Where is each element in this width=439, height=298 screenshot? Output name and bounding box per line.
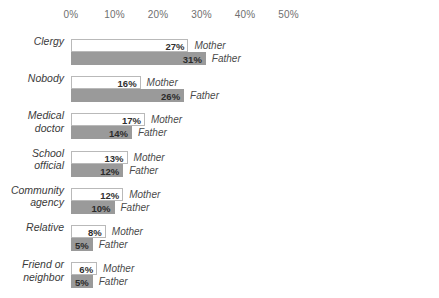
series-name-father: Father xyxy=(212,52,241,65)
bar-mother[interactable]: 8% xyxy=(71,225,106,238)
category-label: Medicaldoctor xyxy=(0,109,64,134)
bar-father[interactable]: 5% xyxy=(71,238,93,251)
bar-mother[interactable]: 16% xyxy=(71,76,141,89)
bar-father[interactable]: 26% xyxy=(71,89,184,102)
bar-father[interactable]: 12% xyxy=(71,164,123,177)
category-label-line2: doctor xyxy=(0,122,64,135)
series-name-father: Father xyxy=(99,275,128,288)
bar-value-label: 26% xyxy=(161,90,180,103)
category-label: Clergy xyxy=(0,35,64,48)
category-label-line1: Friend or xyxy=(22,258,64,270)
plot-area: Clergy27%Mother31%FatherNobody16%Mother2… xyxy=(0,30,439,298)
bar-group: Communityagency12%Mother10%Father xyxy=(0,187,439,215)
x-axis: 0%10%20%30%40%50% xyxy=(0,0,439,30)
bar-value-label: 5% xyxy=(75,276,89,289)
category-label: Schoolofficial xyxy=(0,147,64,172)
category-label: Relative xyxy=(0,221,64,234)
bar-mother[interactable]: 13% xyxy=(71,151,128,164)
bar-value-label: 5% xyxy=(75,239,89,252)
series-name-father: Father xyxy=(138,126,167,139)
bar-mother[interactable]: 12% xyxy=(71,188,123,201)
category-label: Communityagency xyxy=(0,184,64,209)
series-name-mother: Mother xyxy=(129,188,160,201)
category-label-line1: School xyxy=(32,147,64,159)
series-name-mother: Mother xyxy=(194,39,225,52)
bar-value-label: 10% xyxy=(91,202,110,215)
series-name-mother: Mother xyxy=(151,113,182,126)
category-label-line2: neighbor xyxy=(0,271,64,284)
category-label: Nobody xyxy=(0,72,64,85)
category-label: Friend orneighbor xyxy=(0,258,64,283)
category-label-line1: Clergy xyxy=(34,35,64,47)
bar-group: Relative8%Mother5%Father xyxy=(0,224,439,252)
bar-mother[interactable]: 27% xyxy=(71,39,188,52)
bar-father[interactable]: 31% xyxy=(71,52,206,65)
category-label-line2: official xyxy=(0,159,64,172)
category-label-line1: Community xyxy=(11,184,64,196)
series-name-mother: Mother xyxy=(147,76,178,89)
bar-group: Medicaldoctor17%Mother14%Father xyxy=(0,112,439,140)
bar-group: Schoolofficial13%Mother12%Father xyxy=(0,150,439,178)
x-tick-label: 0% xyxy=(64,9,79,20)
bar-mother[interactable]: 17% xyxy=(71,113,145,126)
category-label-line1: Nobody xyxy=(28,72,64,84)
x-tick-label: 40% xyxy=(235,9,256,20)
series-name-mother: Mother xyxy=(134,151,165,164)
bar-group: Clergy27%Mother31%Father xyxy=(0,38,439,66)
category-label-line1: Relative xyxy=(26,221,64,233)
series-name-mother: Mother xyxy=(103,262,134,275)
bar-group: Friend orneighbor6%Mother5%Father xyxy=(0,261,439,289)
x-tick-label: 30% xyxy=(191,9,212,20)
bar-value-label: 12% xyxy=(100,165,119,178)
series-name-father: Father xyxy=(121,201,150,214)
bar-father[interactable]: 14% xyxy=(71,126,132,139)
series-name-father: Father xyxy=(99,238,128,251)
bar-father[interactable]: 5% xyxy=(71,275,93,288)
bar-value-label: 14% xyxy=(109,127,128,140)
series-name-father: Father xyxy=(129,164,158,177)
bar-mother[interactable]: 6% xyxy=(71,262,97,275)
category-label-line2: agency xyxy=(0,196,64,209)
series-name-mother: Mother xyxy=(112,225,143,238)
x-tick-label: 50% xyxy=(278,9,299,20)
bar-group: Nobody16%Mother26%Father xyxy=(0,75,439,103)
bar-value-label: 31% xyxy=(183,53,202,66)
bar-father[interactable]: 10% xyxy=(71,201,115,214)
category-label-line1: Medical xyxy=(28,109,64,121)
series-name-father: Father xyxy=(190,89,219,102)
x-tick-label: 10% xyxy=(104,9,125,20)
x-tick-label: 20% xyxy=(148,9,169,20)
bar-chart: 0%10%20%30%40%50% Clergy27%Mother31%Fath… xyxy=(0,0,439,298)
